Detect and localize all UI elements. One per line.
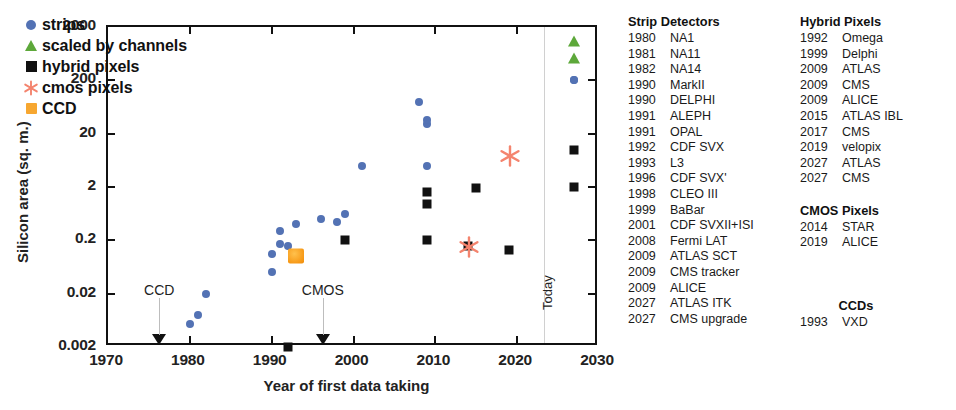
data-point-strips — [202, 290, 210, 298]
row-year: 1999 — [628, 203, 670, 219]
data-point-strips — [341, 210, 349, 218]
circle-marker-icon — [20, 20, 42, 30]
row-name: MarkII — [670, 78, 800, 94]
x-tick-label: 2000 — [335, 351, 369, 369]
strip-detector-row: 2009CMS tracker — [628, 265, 800, 281]
pixel-columns: Hybrid Pixels 1992Omega1999Delphi2009ATL… — [800, 14, 956, 330]
ccds-header: CCDs — [800, 298, 956, 313]
x-tick-label: 1970 — [89, 351, 123, 369]
row-name: NA1 — [670, 31, 800, 47]
detector-tables: Strip Detectors 1980NA11981NA111982NA141… — [628, 14, 956, 404]
strip-detector-row: 2009ALICE — [628, 281, 800, 297]
strip-detectors-header: Strip Detectors — [628, 14, 800, 29]
row-year: 2027 — [800, 156, 842, 172]
axis-marker-triangle-icon — [316, 334, 330, 345]
annotation-label: CCD — [144, 282, 174, 298]
row-year: 2019 — [800, 235, 842, 251]
y-tick — [108, 186, 115, 188]
row-name: CMS — [842, 125, 956, 141]
x-tick-top — [189, 27, 191, 34]
row-year: 2009 — [628, 281, 670, 297]
row-year: 1981 — [628, 47, 670, 63]
x-tick-label: 2020 — [498, 351, 532, 369]
legend-label: CCD — [42, 100, 76, 118]
row-year: 1996 — [628, 171, 670, 187]
hybrid-pixel-row: 2027ATLAS — [800, 156, 956, 172]
y-tick — [108, 293, 115, 295]
cmos-pixel-row: 2014STAR — [800, 220, 956, 236]
row-name: ATLAS SCT — [670, 249, 800, 265]
hybrid-pixels-header: Hybrid Pixels — [800, 14, 956, 29]
data-point-hybrid-pixels — [472, 184, 481, 193]
data-point-hybrid-pixels — [284, 343, 293, 352]
row-name: CDF SVX' — [670, 171, 800, 187]
legend-item-strips: strips — [20, 14, 187, 35]
data-point-hybrid-pixels — [423, 188, 432, 197]
row-name: BaBar — [670, 203, 800, 219]
y-tick-label: 0.02 — [0, 283, 96, 301]
hybrid-pixel-row: 2009ALICE — [800, 93, 956, 109]
strip-detector-row: 1993L3 — [628, 156, 800, 172]
data-point-strips — [276, 240, 284, 248]
data-point-strips — [292, 220, 300, 228]
data-point-scaled-by-channels — [568, 35, 580, 46]
strip-detector-row: 1980NA1 — [628, 31, 800, 47]
row-name: ALICE — [842, 93, 956, 109]
data-point-strips — [358, 162, 366, 170]
data-point-strips — [423, 162, 431, 170]
cmos-pixel-row: 2019ALICE — [800, 235, 956, 251]
row-name: CLEO III — [670, 187, 800, 203]
x-tick-top — [353, 27, 355, 34]
today-label: Today — [540, 275, 555, 310]
x-tick-top — [516, 27, 518, 34]
x-tick — [271, 336, 273, 343]
row-year: 2015 — [800, 109, 842, 125]
data-point-strips — [276, 227, 284, 235]
row-year: 2009 — [628, 265, 670, 281]
data-point-hybrid-pixels — [570, 183, 579, 192]
x-tick-label: 2010 — [416, 351, 450, 369]
data-point-hybrid-pixels — [423, 236, 432, 245]
row-name: CDF SVXII+ISI — [670, 218, 800, 234]
strip-detector-row: 1990MarkII — [628, 78, 800, 94]
row-name: ALICE — [670, 281, 800, 297]
y-tick-label: 0.002 — [0, 336, 96, 354]
row-name: OPAL — [670, 125, 800, 141]
square-marker-icon — [20, 61, 42, 72]
row-name: STAR — [842, 220, 956, 236]
strip-detector-row: 1998CLEO III — [628, 187, 800, 203]
strip-detector-row: 2001CDF SVXII+ISI — [628, 218, 800, 234]
strip-detector-row: 1992CDF SVX — [628, 140, 800, 156]
strip-detector-row: 2027CMS upgrade — [628, 312, 800, 328]
row-name: NA14 — [670, 62, 800, 78]
cmos-pixels-header: CMOS Pixels — [800, 203, 956, 218]
data-point-strips — [268, 250, 276, 258]
y-tick-right — [588, 79, 595, 81]
ccd-square-marker-icon — [20, 103, 42, 114]
row-name: ATLAS — [842, 156, 956, 172]
x-tick — [434, 336, 436, 343]
row-name: VXD — [842, 315, 956, 331]
x-tick-label: 1990 — [253, 351, 287, 369]
strip-detector-row: 1991OPAL — [628, 125, 800, 141]
row-year: 2009 — [800, 78, 842, 94]
x-axis-title: Year of first data taking — [264, 377, 430, 394]
row-year: 2017 — [800, 125, 842, 141]
hybrid-pixel-row: 2017CMS — [800, 125, 956, 141]
y-tick-label: 2 — [0, 176, 96, 194]
row-name: ATLAS ITK — [670, 296, 800, 312]
data-point-hybrid-pixels — [504, 246, 513, 255]
legend-item-cmos-pixels: cmos pixels — [20, 77, 187, 98]
hybrid-pixel-row: 2009ATLAS — [800, 62, 956, 78]
row-name: Fermi LAT — [670, 234, 800, 250]
row-year: 1990 — [628, 78, 670, 94]
row-year: 1992 — [800, 31, 842, 47]
chart-panel: Silicon area (sq. m.) Year of first data… — [0, 0, 620, 410]
row-name: ALEPH — [670, 109, 800, 125]
row-year: 1991 — [628, 125, 670, 141]
legend-label: hybrid pixels — [42, 58, 139, 76]
row-name: NA11 — [670, 47, 800, 63]
row-year: 1980 — [628, 31, 670, 47]
asterisk-marker-icon — [20, 80, 42, 96]
row-year: 2027 — [628, 312, 670, 328]
